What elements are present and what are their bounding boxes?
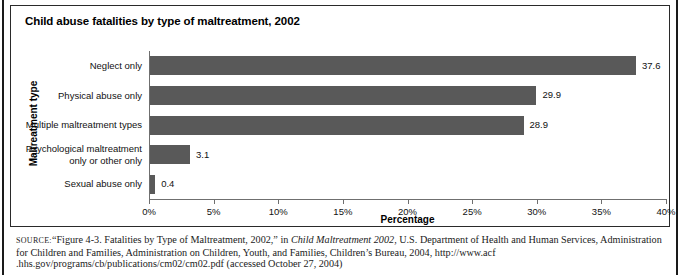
- bar: [150, 175, 155, 194]
- x-axis-title: Percentage: [149, 214, 666, 225]
- x-axis-tick: [601, 199, 602, 204]
- category-label: Psychological maltreatmentonly or other …: [0, 143, 149, 166]
- category-label: Neglect only: [0, 60, 149, 72]
- bar-value-label: 3.1: [196, 149, 209, 160]
- bar-value-label: 37.6: [642, 60, 661, 71]
- bar: [150, 116, 524, 135]
- category-label: Physical abuse only: [0, 90, 149, 102]
- bar: [150, 56, 636, 75]
- bar-value-label: 28.9: [530, 119, 549, 130]
- page-rule-right: [676, 0, 678, 275]
- bar-value-label: 0.4: [161, 178, 174, 189]
- chart-title: Child abuse fatalities by type of maltre…: [25, 15, 300, 27]
- plot-area: 0%5%10%15%20%25%30%35%40%37.6Neglect onl…: [149, 51, 666, 199]
- page-rule-left: [2, 0, 4, 275]
- category-label: Multiple maltreatment types: [0, 119, 149, 131]
- x-axis-tick: [149, 199, 150, 204]
- figure-page: Child abuse fatalities by type of maltre…: [0, 0, 694, 275]
- bar: [150, 86, 536, 105]
- bar: [150, 145, 190, 164]
- source-note: SOURCE:“Figure 4-3. Fatalities by Type o…: [16, 234, 668, 270]
- x-axis-tick: [278, 199, 279, 204]
- x-axis-tick: [472, 199, 473, 204]
- source-text-part1: “Figure 4-3. Fatalities by Type of Maltr…: [52, 234, 291, 245]
- x-axis-tick: [537, 199, 538, 204]
- x-axis-tick: [343, 199, 344, 204]
- x-axis-tick: [666, 199, 667, 204]
- category-label: Sexual abuse only: [0, 178, 149, 190]
- x-axis-tick: [408, 199, 409, 204]
- source-italic-title: Child Maltreatment 2002: [291, 234, 394, 245]
- x-axis-tick: [214, 199, 215, 204]
- chart-panel: Child abuse fatalities by type of maltre…: [10, 5, 670, 227]
- bar-value-label: 29.9: [542, 89, 561, 100]
- source-kicker: SOURCE:: [16, 236, 52, 245]
